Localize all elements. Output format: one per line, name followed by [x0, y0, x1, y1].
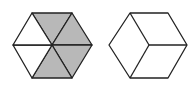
- cube-hexagon: [109, 13, 187, 78]
- figure: [0, 0, 195, 85]
- diagram-svg: [0, 0, 195, 85]
- shaded-hexagon: [13, 13, 92, 78]
